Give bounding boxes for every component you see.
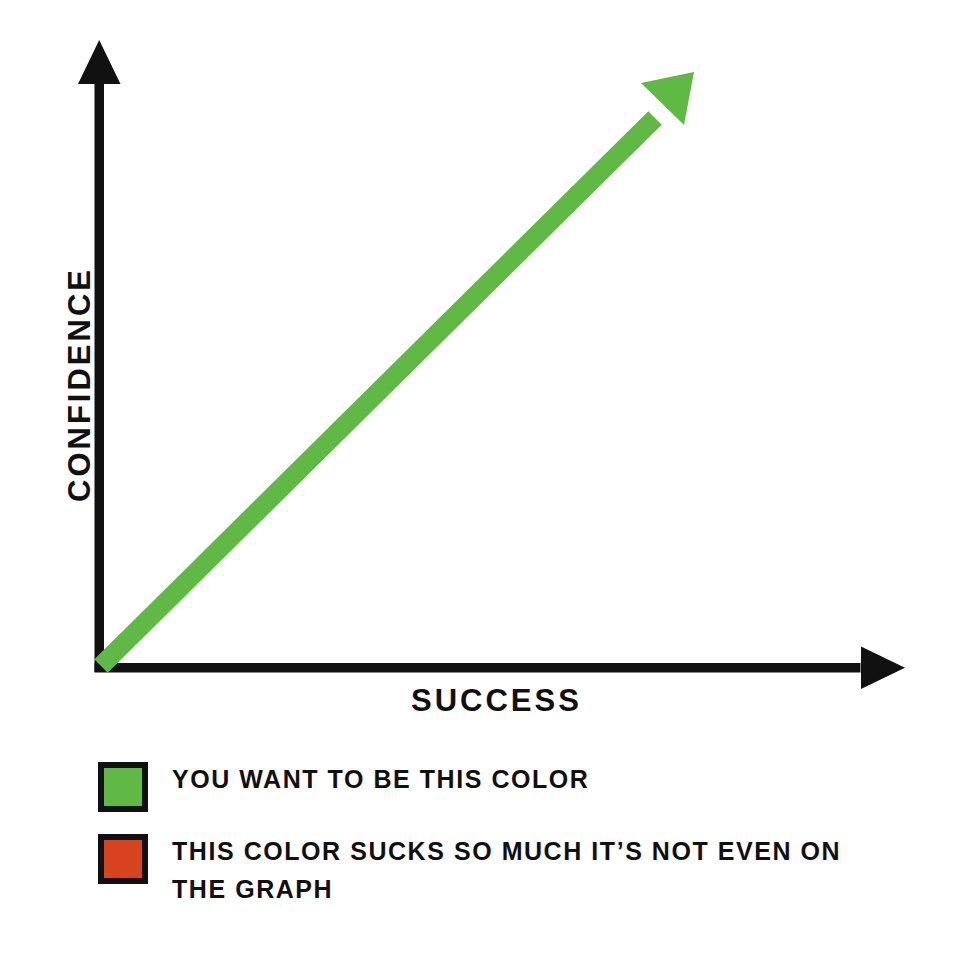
- legend-label-green: YOU WANT TO BE THIS COLOR: [172, 760, 589, 798]
- x-axis-title: SUCCESS: [411, 685, 582, 716]
- legend-swatch-red: [98, 834, 148, 884]
- upward-trend-arrow: [101, 72, 694, 666]
- chart-legend: YOU WANT TO BE THIS COLOR THIS COLOR SUC…: [98, 760, 938, 928]
- chart-svg: [0, 0, 972, 740]
- y-axis-title: CONFIDENCE: [64, 267, 95, 502]
- legend-item-red: THIS COLOR SUCKS SO MUCH IT’S NOT EVEN O…: [98, 832, 938, 908]
- chart-plot-area: CONFIDENCE SUCCESS: [0, 0, 972, 740]
- legend-label-red: THIS COLOR SUCKS SO MUCH IT’S NOT EVEN O…: [172, 832, 872, 908]
- meme-chart-page: CONFIDENCE SUCCESS YOU WANT TO BE THIS C…: [0, 0, 972, 954]
- legend-item-green: YOU WANT TO BE THIS COLOR: [98, 760, 938, 812]
- legend-swatch-green: [98, 762, 148, 812]
